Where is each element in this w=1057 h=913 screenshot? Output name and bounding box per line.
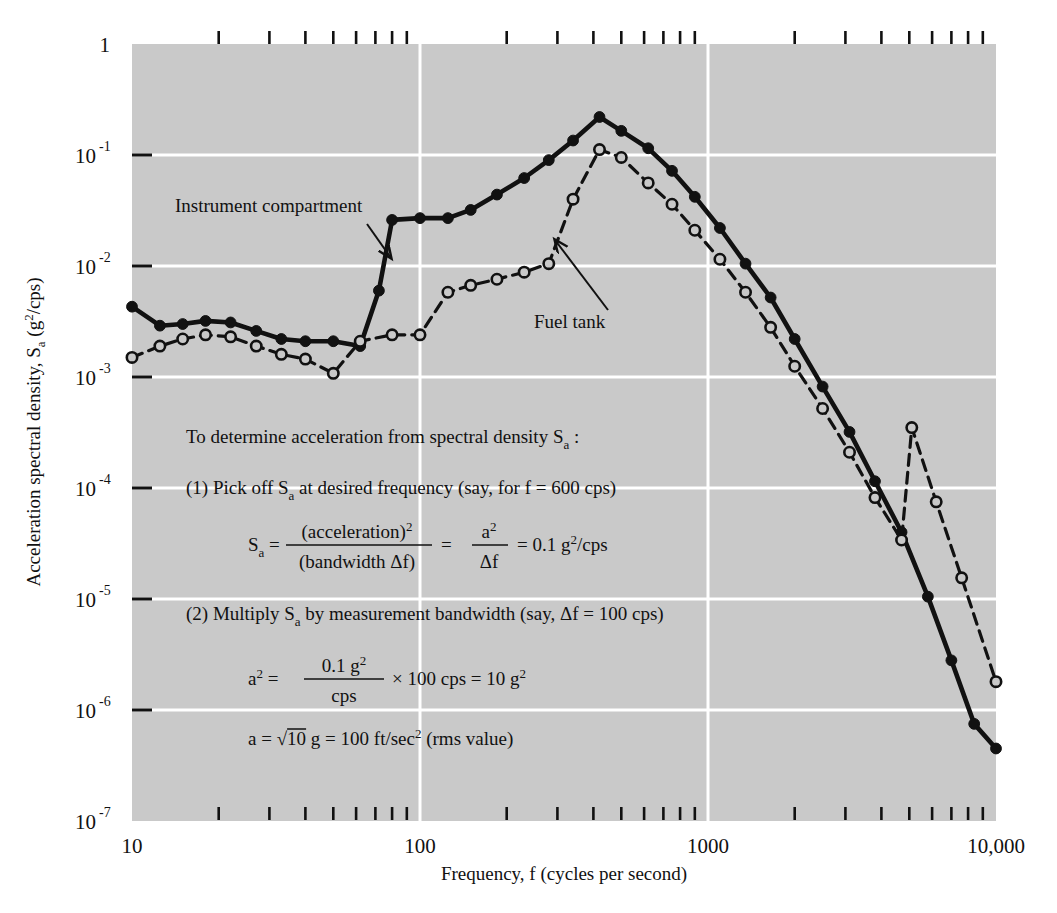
data-point-filled xyxy=(519,173,530,184)
figure-container: 10100100010,000 110-110-210-310-410-510-… xyxy=(0,0,1057,913)
y-tick-labels: 110-110-210-310-410-510-610-7 xyxy=(75,33,111,834)
formula2-tail: × 100 cps = 10 g2 xyxy=(392,666,526,689)
data-point-open xyxy=(387,330,397,340)
data-point-open xyxy=(355,336,365,346)
data-point-filled xyxy=(969,718,980,729)
data-point-open xyxy=(127,352,137,362)
x-axis-title: Frequency, f (cycles per second) xyxy=(441,863,687,885)
y-tick-exponent: -2 xyxy=(99,250,111,265)
data-point-filled xyxy=(568,135,579,146)
data-point-filled xyxy=(276,334,287,345)
data-point-open xyxy=(817,403,827,413)
data-point-open xyxy=(443,287,453,297)
data-point-open xyxy=(178,334,188,344)
data-point-open xyxy=(225,332,235,342)
y-tick-exponent: -3 xyxy=(99,361,111,376)
data-point-open xyxy=(765,322,775,332)
data-point-filled xyxy=(594,112,605,123)
data-point-filled xyxy=(789,334,800,345)
data-point-open xyxy=(616,152,626,162)
data-point-filled xyxy=(328,336,339,347)
y-tick-label: 10-4 xyxy=(75,472,111,501)
data-point-open xyxy=(415,330,425,340)
data-point-open xyxy=(466,280,476,290)
formula1-eq2: = xyxy=(441,534,452,555)
data-point-filled xyxy=(715,223,726,234)
x-tick-label: 10,000 xyxy=(967,834,1025,858)
data-point-open xyxy=(200,330,210,340)
data-point-filled xyxy=(465,205,476,216)
curve-label-2: Fuel tank xyxy=(534,311,606,332)
data-point-open xyxy=(667,199,677,209)
data-point-filled xyxy=(200,316,211,327)
y-tick-exponent: -7 xyxy=(99,805,111,820)
x-tick-label: 1000 xyxy=(687,834,729,858)
data-point-filled xyxy=(443,213,454,224)
data-point-filled xyxy=(543,155,554,166)
y-tick-exponent: -5 xyxy=(99,583,111,598)
data-point-filled xyxy=(991,743,1002,754)
data-point-open xyxy=(643,178,653,188)
data-point-open xyxy=(251,341,261,351)
y-tick-mantissa: 10 xyxy=(75,477,96,501)
data-point-filled xyxy=(922,591,933,602)
data-point-open xyxy=(715,254,725,264)
x-tick-label: 10 xyxy=(122,834,143,858)
data-point-open xyxy=(896,535,906,545)
formula1-frac1-denominator: (bandwidth Δf) xyxy=(299,551,415,573)
data-point-filled xyxy=(415,213,426,224)
y-axis-title-text: Acceleration spectral density, Sa (g2/cp… xyxy=(21,277,48,586)
data-point-filled xyxy=(155,320,166,331)
data-point-open xyxy=(519,267,529,277)
data-point-filled xyxy=(374,285,385,296)
data-point-open xyxy=(594,144,604,154)
y-tick-exponent: -1 xyxy=(99,139,111,154)
data-point-open xyxy=(991,676,1001,686)
y-tick-label: 10-2 xyxy=(75,250,111,279)
data-point-filled xyxy=(225,317,236,328)
data-point-open xyxy=(844,447,854,457)
y-tick-label: 10-1 xyxy=(75,139,111,168)
y-tick-mantissa: 10 xyxy=(75,255,96,279)
data-point-filled xyxy=(387,215,398,226)
data-point-open xyxy=(740,287,750,297)
data-point-filled xyxy=(492,189,503,200)
data-point-filled xyxy=(300,336,311,347)
formula2-lhs: a2 = xyxy=(248,666,278,689)
y-tick-label: 10-3 xyxy=(75,361,111,390)
y-tick-exponent: -6 xyxy=(99,694,111,709)
y-tick-exponent: -4 xyxy=(99,472,111,487)
data-point-filled xyxy=(946,655,957,666)
formula1-result: = 0.1 g2/cps xyxy=(517,532,608,555)
data-point-open xyxy=(931,497,941,507)
formula1-frac2-denominator: Δf xyxy=(480,551,499,572)
data-point-open xyxy=(789,361,799,371)
data-point-filled xyxy=(765,292,776,303)
data-point-filled xyxy=(251,326,262,337)
x-tick-labels: 10100100010,000 xyxy=(122,834,1025,858)
data-point-filled xyxy=(177,319,188,330)
data-point-filled xyxy=(616,125,627,136)
y-axis-title: Acceleration spectral density, Sa (g2/cp… xyxy=(21,277,48,586)
data-point-open xyxy=(544,258,554,268)
data-point-open xyxy=(870,492,880,502)
x-tick-label: 100 xyxy=(404,834,436,858)
data-point-open xyxy=(690,225,700,235)
data-point-filled xyxy=(740,258,751,269)
y-tick-label: 10-6 xyxy=(75,694,111,723)
curve-label-1: Instrument compartment xyxy=(175,195,363,216)
y-tick-label: 10-5 xyxy=(75,583,111,612)
data-point-filled xyxy=(844,427,855,438)
y-tick-label: 10-7 xyxy=(75,805,111,834)
spectral-density-chart: 10100100010,000 110-110-210-310-410-510-… xyxy=(0,0,1057,913)
data-point-open xyxy=(907,422,917,432)
y-tick-mantissa: 10 xyxy=(75,144,96,168)
data-point-filled xyxy=(870,476,881,487)
data-point-filled xyxy=(643,143,654,154)
data-point-filled xyxy=(689,191,700,202)
data-point-open xyxy=(492,274,502,284)
data-point-open xyxy=(300,354,310,364)
y-tick-mantissa: 10 xyxy=(75,699,96,723)
y-tick-mantissa: 1 xyxy=(100,33,111,57)
data-point-filled xyxy=(667,165,678,176)
